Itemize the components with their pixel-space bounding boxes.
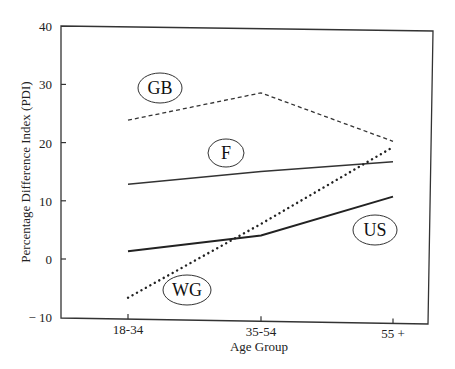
series-label-gb: GB — [147, 78, 172, 98]
y-axis-title: Percentage Difference Index (PDI) — [18, 81, 33, 262]
x-tick-label: 35-54 — [246, 324, 277, 339]
x-tick-label: 55 + — [381, 326, 405, 341]
x-tick-label: 18-34 — [113, 322, 144, 337]
y-tick-label: 30 — [39, 77, 52, 92]
series-us-line — [128, 197, 393, 252]
y-tick-label: 20 — [39, 136, 52, 151]
series-wg-line — [128, 147, 393, 298]
series-label-f: F — [221, 143, 231, 163]
x-axis-ticks: 18-3435-5455 + — [113, 314, 405, 341]
y-tick-label: 0 — [46, 252, 53, 267]
series-lines — [128, 93, 393, 298]
y-tick-label: 10 — [39, 194, 52, 209]
y-tick-label: 40 — [39, 19, 52, 34]
series-label-us: US — [363, 220, 386, 240]
series-f-line — [128, 162, 393, 185]
line-chart: − 10010203040 18-3435-5455 + GBFUSWG Per… — [0, 0, 455, 369]
x-axis-title: Age Group — [230, 339, 288, 354]
y-tick-label: − 10 — [28, 310, 52, 325]
series-label-wg: WG — [172, 280, 202, 300]
plot-frame — [61, 26, 433, 324]
